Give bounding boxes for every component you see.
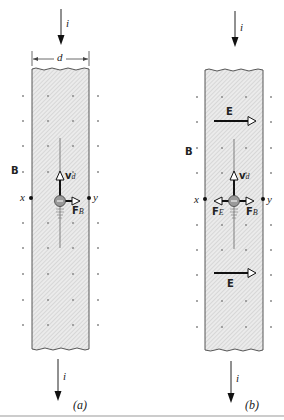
field-label-B-b: B: [185, 147, 193, 157]
current-arrow-top-a: [58, 9, 65, 45]
point-y-b: [261, 197, 265, 201]
point-x-a: [29, 196, 33, 200]
electric-force-label-b: FE: [212, 207, 224, 217]
current-label-top-b: i: [240, 22, 243, 33]
width-label-d: d: [57, 52, 63, 63]
point-label-x-b: x: [194, 194, 199, 205]
current-label-top-a: i: [66, 18, 69, 29]
current-arrow-bottom-b: [228, 361, 235, 403]
field-label-B-a: B: [11, 166, 19, 176]
point-label-y-b: y: [267, 194, 272, 205]
panel-a: [22, 9, 99, 401]
point-x-b: [203, 197, 207, 201]
velocity-label-a: vd: [65, 171, 76, 181]
caption-b: (b): [245, 399, 259, 411]
current-arrow-top-b: [232, 11, 239, 47]
point-y-a: [87, 196, 91, 200]
point-label-x-a: x: [20, 192, 25, 203]
velocity-label-b: vd: [239, 171, 250, 181]
magnetic-force-label-a: FB: [72, 206, 84, 216]
panel-b: [196, 11, 272, 403]
caption-a: (a): [73, 399, 87, 411]
hall-effect-figure: i d B x y vd FB i (a) i E B x y vd FB FE…: [0, 0, 284, 420]
current-label-bottom-b: i: [236, 373, 239, 384]
electric-field-label-top: E: [226, 107, 233, 117]
current-arrow-bottom-a: [55, 359, 62, 401]
current-label-bottom-a: i: [63, 371, 66, 382]
figure-canvas: [0, 0, 284, 420]
point-label-y-a: y: [93, 192, 98, 203]
magnetic-force-label-b: FB: [246, 207, 258, 217]
electric-field-label-bottom: E: [227, 279, 234, 289]
